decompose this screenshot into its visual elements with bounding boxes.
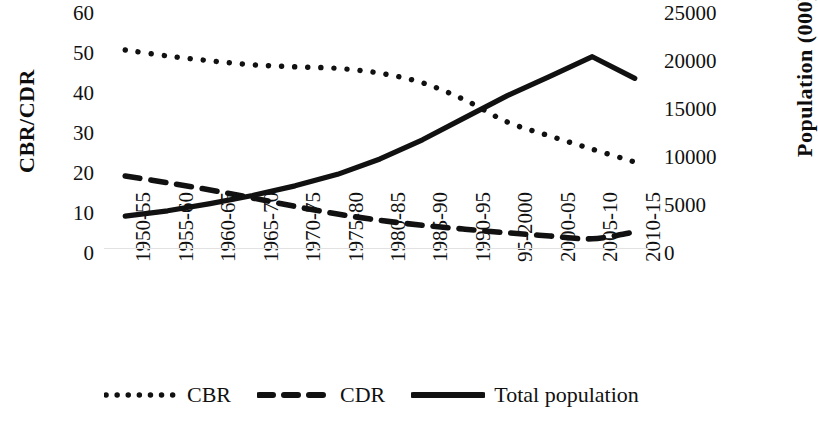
y-axis-right-title: Population (000) bbox=[792, 0, 818, 205]
y-axis-left-ticks: 6050403020100 bbox=[34, 0, 94, 434]
legend-item-cdr[interactable]: CDR bbox=[257, 382, 385, 408]
chart-legend: CBRCDRTotal population bbox=[104, 378, 714, 412]
y-axis-left-tick-label: 0 bbox=[34, 243, 94, 264]
y-axis-left-tick-label: 10 bbox=[34, 203, 94, 224]
y-axis-right-tick-label: 5000 bbox=[664, 195, 754, 216]
data-series-cbr bbox=[125, 50, 635, 162]
plot-area bbox=[104, 14, 656, 254]
series-canvas bbox=[104, 14, 656, 254]
y-axis-left-tick-label: 30 bbox=[34, 123, 94, 144]
y-axis-right-tick-label: 0 bbox=[664, 243, 754, 264]
legend-item-cbr[interactable]: CBR bbox=[104, 382, 231, 408]
legend-label: Total population bbox=[494, 382, 639, 408]
legend-label: CDR bbox=[340, 382, 385, 408]
y-axis-right-tick-label: 10000 bbox=[664, 147, 754, 168]
legend-item-total-population[interactable]: Total population bbox=[411, 382, 639, 408]
y-axis-left-tick-label: 60 bbox=[34, 3, 94, 24]
legend-swatch-dashed-icon bbox=[257, 388, 331, 402]
y-axis-right-tick-label: 20000 bbox=[664, 51, 754, 72]
legend-swatch-dotted-icon bbox=[104, 388, 178, 402]
y-axis-right-tick-label: 15000 bbox=[664, 99, 754, 120]
y-axis-right-ticks: 2500020000150001000050000 bbox=[664, 0, 759, 434]
y-axis-left-tick-label: 20 bbox=[34, 163, 94, 184]
legend-swatch-solid-icon bbox=[411, 388, 485, 402]
y-axis-right-tick-label: 25000 bbox=[664, 3, 754, 24]
y-axis-left-tick-label: 40 bbox=[34, 83, 94, 104]
y-axis-left-tick-label: 50 bbox=[34, 43, 94, 64]
chart-container: CBR/CDR Population (000) 6050403020100 2… bbox=[0, 0, 818, 434]
legend-label: CBR bbox=[187, 382, 231, 408]
